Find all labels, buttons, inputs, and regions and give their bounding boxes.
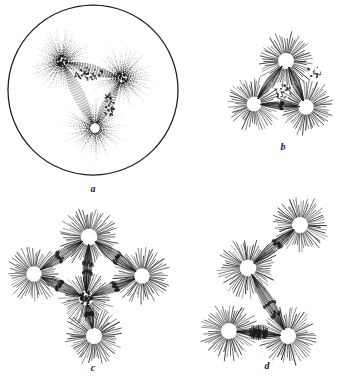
panel-b-illustration [228,30,338,142]
panel-b-label: b [228,142,338,152]
panel-d-illustration [196,196,338,368]
panel-b: b [228,30,338,158]
panel-c: c [8,206,178,377]
panel-d-label: d [196,361,338,371]
panel-a-label: a [0,184,186,194]
aster-center-centrosome [79,291,94,305]
aster-lower-right [260,307,316,365]
cell-membrane [8,5,178,175]
panel-c-illustration [8,206,178,366]
aster-upper-left [32,29,95,91]
figure-plate: a b c d [0,0,338,377]
panel-c-label: c [8,363,178,373]
aster-bottom [65,308,121,364]
spindle-top-to-center [82,245,94,292]
panel-d: d [196,196,338,377]
panel-a-illustration [0,0,186,196]
panel-a: a [0,0,186,196]
chromosome-group-right [307,66,322,78]
aster-lower [63,97,125,161]
